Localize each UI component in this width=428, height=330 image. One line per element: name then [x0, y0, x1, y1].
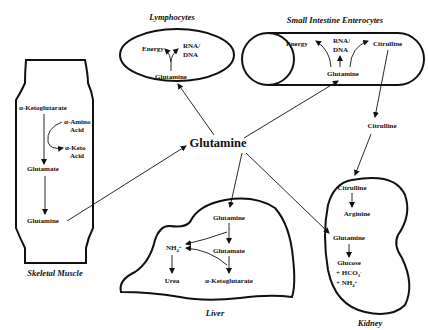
arrow-liver-gln-nh4: [186, 232, 227, 244]
kidney-arginine: Arginine: [344, 210, 370, 218]
enterocytes-glutamine: Glutamine: [327, 70, 359, 78]
skeletal-muscle-organ: Skeletal Muscle α-Ketoglutarate α-Amino …: [16, 60, 93, 278]
lymphocytes-organ: Lymphocytes Energy RNA/ DNA Glutamine: [120, 12, 234, 81]
arrow-muscle-transamination: [48, 122, 63, 148]
arrow-center-to-kidney: [246, 153, 329, 233]
arrow-muscle-to-center: [67, 146, 186, 221]
kidney-citrulline: Citrulline: [337, 184, 366, 192]
liver-glutamate: Glutamate: [213, 247, 245, 255]
muscle-keto1: α-Keto: [65, 144, 86, 152]
enterocytes-citrulline: Citrulline: [373, 40, 402, 48]
muscle-shape: [16, 60, 93, 263]
muscle-akg: α-Ketoglutarate: [19, 104, 67, 112]
lymphocytes-title: Lymphocytes: [148, 12, 195, 22]
liver-akg: α-Ketoglutarate: [205, 277, 253, 285]
muscle-amino2: Acid: [70, 126, 84, 134]
kidney-hco3: + HCO3-: [336, 269, 362, 278]
kidney-title: Kidney: [357, 318, 383, 328]
muscle-glutamate: Glutamate: [27, 165, 59, 173]
enterocytes-dna: DNA: [333, 46, 348, 54]
lymphocytes-energy: Energy: [142, 45, 164, 53]
liver-title: Liver: [205, 308, 225, 318]
lymphocytes-glutamine: Glutamine: [155, 73, 187, 81]
muscle-glutamine: Glutamine: [27, 217, 59, 225]
kidney-organ: Kidney Citrulline Arginine Glutamine Glu…: [325, 178, 409, 328]
arrow-ent-citrulline: [350, 41, 368, 67]
muscle-keto2: Acid: [70, 152, 84, 160]
liver-urea: Urea: [165, 277, 180, 285]
arrow-center-to-lymphocytes: [178, 84, 214, 135]
enterocytes-rna: RNA/: [333, 37, 351, 45]
arrow-lymph-rna: [171, 49, 178, 62]
arrow-ent-energy: [316, 41, 331, 67]
center-glutamine: Glutamine: [190, 136, 247, 150]
enterocytes-organ: Small Intestine Enterocytes Energy RNA/ …: [242, 15, 424, 85]
liver-nh4: NH4+: [166, 244, 182, 253]
arrow-enterocyte-citrulline-down: [375, 50, 388, 117]
lymphocytes-rna: RNA/: [183, 42, 201, 50]
enterocytes-title: Small Intestine Enterocytes: [287, 15, 384, 25]
arrow-center-to-enterocytes: [244, 81, 338, 138]
kidney-glutamine: Glutamine: [333, 234, 365, 242]
liver-organ: Liver Glutamine NH4+ Glutamate Urea α-Ke…: [121, 199, 295, 318]
muscle-amino1: α-Amino: [64, 118, 91, 126]
lymphocytes-dna: DNA: [183, 51, 198, 59]
kidney-shape: [325, 178, 409, 314]
glutamine-metabolism-diagram: Lymphocytes Energy RNA/ DNA Glutamine Sm…: [0, 0, 428, 330]
kidney-nh4: + NH4+: [336, 279, 358, 288]
intermediate-citrulline: Citrulline: [367, 122, 396, 130]
liver-glutamine: Glutamine: [213, 214, 245, 222]
arrow-lymph-energy: [165, 49, 171, 71]
kidney-glucose: Glucose: [337, 259, 361, 267]
enterocytes-energy: Energy: [286, 40, 308, 48]
arrow-citrulline-to-kidney: [355, 134, 371, 175]
muscle-title: Skeletal Muscle: [27, 268, 83, 278]
